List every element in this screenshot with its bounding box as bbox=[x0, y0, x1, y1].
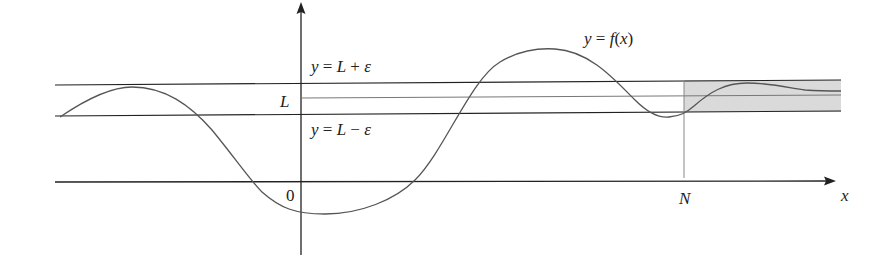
lower-band-label: y = L − ε bbox=[311, 121, 371, 138]
limit-label: L bbox=[280, 93, 289, 110]
function-curve bbox=[60, 49, 841, 214]
limit-diagram bbox=[0, 0, 874, 267]
lower-band-line bbox=[55, 111, 841, 116]
curve-label: y = f(x) bbox=[584, 30, 633, 47]
N-label: N bbox=[679, 190, 690, 207]
x-axis-label: x bbox=[841, 187, 849, 204]
upper-band-label: y = L + ε bbox=[311, 58, 371, 75]
origin-label: 0 bbox=[286, 187, 295, 204]
x-axis bbox=[55, 181, 828, 182]
